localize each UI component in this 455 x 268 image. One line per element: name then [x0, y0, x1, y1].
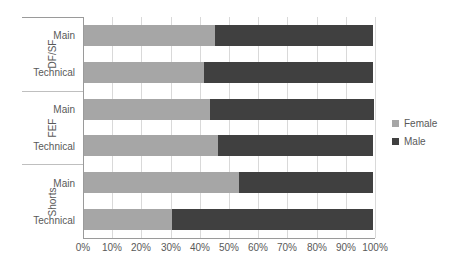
value-axis-tick-label: 30% [161, 242, 181, 253]
value-axis-tick-label: 10% [102, 242, 122, 253]
plot-area [83, 17, 375, 238]
bar-row [83, 209, 375, 230]
bar-segment-male [210, 99, 374, 120]
value-axis-tick-label: 90% [336, 242, 356, 253]
bar-row [83, 135, 375, 156]
category-tick-label: Main [53, 177, 75, 188]
gridline [229, 17, 230, 238]
category-tick-label: Main [53, 30, 75, 41]
legend-label: Male [404, 136, 426, 147]
value-axis-tick-label: 20% [131, 242, 151, 253]
gridline [346, 17, 347, 238]
category-tick-label: Main [53, 104, 75, 115]
bar-segment-female [84, 209, 172, 230]
bar-segment-male [218, 135, 373, 156]
chart-legend: FemaleMale [392, 115, 454, 151]
bar-row [83, 99, 375, 120]
gridline [287, 17, 288, 238]
gridline [112, 17, 113, 238]
bar-segment-female [84, 172, 239, 193]
legend-item[interactable]: Male [392, 133, 454, 149]
bar-segment-male [239, 172, 373, 193]
bar-segment-male [172, 209, 373, 230]
chart-container: DF/SFFEFShorts MainTechnicalMainTechnica… [0, 0, 455, 268]
value-axis-tick-label: 70% [277, 242, 297, 253]
value-axis-line [83, 238, 375, 239]
bar-segment-female [84, 135, 218, 156]
bar-row [83, 25, 375, 46]
gridline [141, 17, 142, 238]
category-tick-label: Technical [33, 214, 75, 225]
gridline [258, 17, 259, 238]
value-axis-tick-label: 80% [307, 242, 327, 253]
bar-segment-female [84, 62, 204, 83]
legend-item[interactable]: Female [392, 115, 454, 131]
bar-segment-female [84, 25, 215, 46]
legend-label: Female [404, 118, 437, 129]
value-axis-tick-label: 60% [248, 242, 268, 253]
value-axis-tick-label: 50% [219, 242, 239, 253]
category-axis-line [83, 17, 84, 238]
gridline [375, 17, 376, 238]
gridline [171, 17, 172, 238]
gridlines [83, 17, 375, 238]
value-axis-tick-label: 40% [190, 242, 210, 253]
gridline [200, 17, 201, 238]
legend-swatch-male [392, 138, 399, 145]
bar-segment-male [215, 25, 373, 46]
category-tick-label: Technical [33, 67, 75, 78]
gridline [317, 17, 318, 238]
bar-segment-male [204, 62, 373, 83]
legend-swatch-female [392, 120, 399, 127]
category-tick-label: Technical [33, 140, 75, 151]
value-axis-tick-labels: 0%10%20%30%40%50%60%70%80%90%100% [83, 242, 375, 260]
bar-row [83, 62, 375, 83]
value-axis-tick-label: 100% [362, 242, 388, 253]
bar-segment-female [84, 99, 210, 120]
bar-row [83, 172, 375, 193]
category-tick-labels: MainTechnicalMainTechnicalMainTechnical [0, 17, 80, 238]
value-axis-tick-label: 0% [76, 242, 90, 253]
